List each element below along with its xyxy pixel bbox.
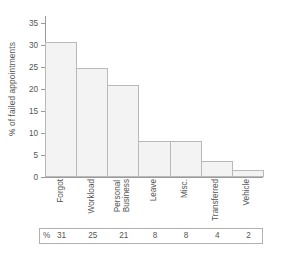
x-axis-label-transferred: Transferred xyxy=(201,179,232,225)
bar-misc xyxy=(170,141,202,177)
y-axis-ticks: 05101520253035 xyxy=(0,16,45,178)
x-axis-category-labels: ForgotWorkloadPersonalBusinessLeaveMisc.… xyxy=(45,179,263,225)
y-axis-tick-label: 30 xyxy=(29,40,38,49)
y-axis-tick-label: 10 xyxy=(29,128,38,137)
x-axis-label-misc: Misc. xyxy=(170,179,201,225)
bar-forgot xyxy=(45,42,77,177)
x-axis-label-line: Transferred xyxy=(211,179,220,221)
bar-series xyxy=(45,17,263,178)
data-table: % 3125218842 xyxy=(39,228,263,244)
data-table-cell: 25 xyxy=(77,229,108,243)
y-axis-tick-label: 35 xyxy=(29,18,38,27)
data-table-cell: 8 xyxy=(139,229,170,243)
data-table-cell: 21 xyxy=(108,229,139,243)
x-axis-label-workload: Workload xyxy=(76,179,107,225)
data-table-cell: 2 xyxy=(233,229,264,243)
x-axis-label-line: Workload xyxy=(86,179,95,213)
x-axis-label-personal-business: PersonalBusiness xyxy=(107,179,138,225)
x-axis-label-forgot: Forgot xyxy=(45,179,76,225)
y-axis-tick-label: 15 xyxy=(29,106,38,115)
y-axis-tick-label: 20 xyxy=(29,84,38,93)
bar-transferred xyxy=(201,161,233,177)
x-axis-label-line: Business xyxy=(123,179,132,212)
bar-leave xyxy=(138,141,170,177)
data-table-cell: 4 xyxy=(202,229,233,243)
x-axis-label-line: Forgot xyxy=(55,179,64,203)
x-axis-label-line: Leave xyxy=(149,179,158,201)
bar-workload xyxy=(76,68,108,177)
x-axis-label-line: Vehicle xyxy=(242,179,251,205)
data-table-cell: 8 xyxy=(171,229,202,243)
x-axis-label-vehicle: Vehicle xyxy=(232,179,263,225)
x-axis-label-line: Misc. xyxy=(180,179,189,198)
x-axis-label-line: Personal xyxy=(113,180,122,212)
data-table-cell: 31 xyxy=(46,229,77,243)
bar-personal-business xyxy=(107,85,139,177)
y-axis-tick-label: 25 xyxy=(29,62,38,71)
x-axis-label-leave: Leave xyxy=(138,179,169,225)
bar-vehicle xyxy=(232,170,264,177)
y-axis-tick-label: 5 xyxy=(33,150,38,159)
y-axis-tick-label: 0 xyxy=(33,173,38,182)
bar-chart-figure: % of failed appointments 05101520253035 … xyxy=(0,0,282,261)
